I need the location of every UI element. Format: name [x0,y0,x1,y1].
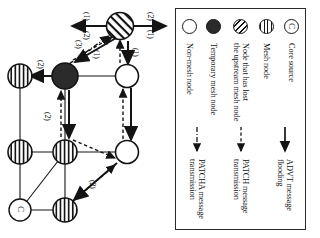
edge-label-left-2: (2) [82,31,90,40]
edge-label-diag-mid: (1) [92,50,100,59]
dash-dot-arrow-icon [186,125,209,159]
network-node-lost-upstream [107,13,134,40]
edge-label-diag-top: (1) [131,48,139,57]
figure-inner: C Core source Mesh node Node that has lo… [0,0,320,238]
node-lost-upstream-icon [230,9,253,43]
core-source-icon: C [280,9,303,43]
core-node-letter: C [16,206,25,212]
mesh-node-icon [255,9,278,43]
legend-entry-patcha: PATCHA message transmission [186,125,209,231]
non-mesh-node-icon [178,9,201,43]
figure-stage: C Core source Mesh node Node that has lo… [0,0,320,238]
edge-label-diag-low: (3) [74,40,82,49]
network-node-mesh-bot-a [8,64,32,88]
legend-label-advt: ADVT message flooding [277,159,295,211]
legend-label-lost-upstream: Node that has lost the upstream mesh nod… [232,43,250,121]
legend-label-non-mesh: Non-mesh node [185,43,194,94]
edge-label-up-2: (2) [146,12,154,21]
legend-label-core-source: Core source [287,43,296,82]
network-node-temporary-mesh [52,63,78,89]
network-node-non-mesh-a [116,65,139,88]
temporary-mesh-node-icon [202,9,225,43]
network-node-mesh-mid-a [53,140,77,164]
network-node-non-mesh-b [116,141,139,164]
network-diagram: C (1) (2) (1) (2) (1) (1) (3) (2) (2) (2… [0,0,172,238]
legend-label-temporary-mesh: Temporary mesh node [209,43,218,115]
legend-label-patcha: PATCHA message transmission [189,159,207,219]
edge-label-up-1: (1) [146,30,154,39]
legend-label-patch: PATCH message transmission [233,159,251,213]
dashed-arrow-icon [230,125,253,159]
legend-entry-patch: PATCH message transmission [230,125,253,231]
edge-label-left-1: (1) [82,12,90,21]
edge-label-down-2: (2) [36,60,44,69]
legend-entry-advt: ADVT message flooding [274,125,297,231]
solid-arrow-icon [274,125,297,159]
legend-label-mesh-node: Mesh node [262,43,271,79]
network-node-mesh-bot-b [8,140,32,164]
network-node-mesh-mid-b [53,198,77,222]
legend-box: C Core source Mesh node Node that has lo… [175,8,306,230]
edge-label-right-2: (2) [88,180,96,189]
edge-label-mid-2: (2) [43,112,51,121]
